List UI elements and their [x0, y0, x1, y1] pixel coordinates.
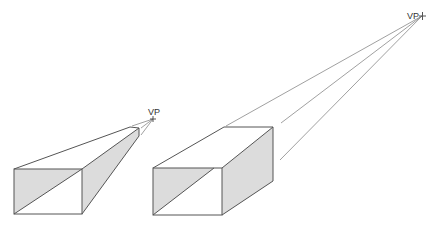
- box-right-side-face: [222, 127, 273, 215]
- box-right: [153, 16, 422, 215]
- perspective-diagram: VP VP: [0, 0, 435, 225]
- box-right-guide-1: [226, 16, 422, 126]
- box-right-guide-3: [280, 16, 422, 160]
- box-left: [14, 119, 153, 214]
- vp-right-label: VP: [407, 11, 419, 21]
- box-left-back-top-edge: [130, 127, 139, 128]
- vp-right-marker: VP: [407, 11, 426, 21]
- box-left-guide-1: [132, 119, 153, 126]
- box-right-guide-2: [281, 16, 422, 123]
- box-right-top-left-edge: [153, 127, 224, 168]
- vp-left-label: VP: [148, 107, 160, 117]
